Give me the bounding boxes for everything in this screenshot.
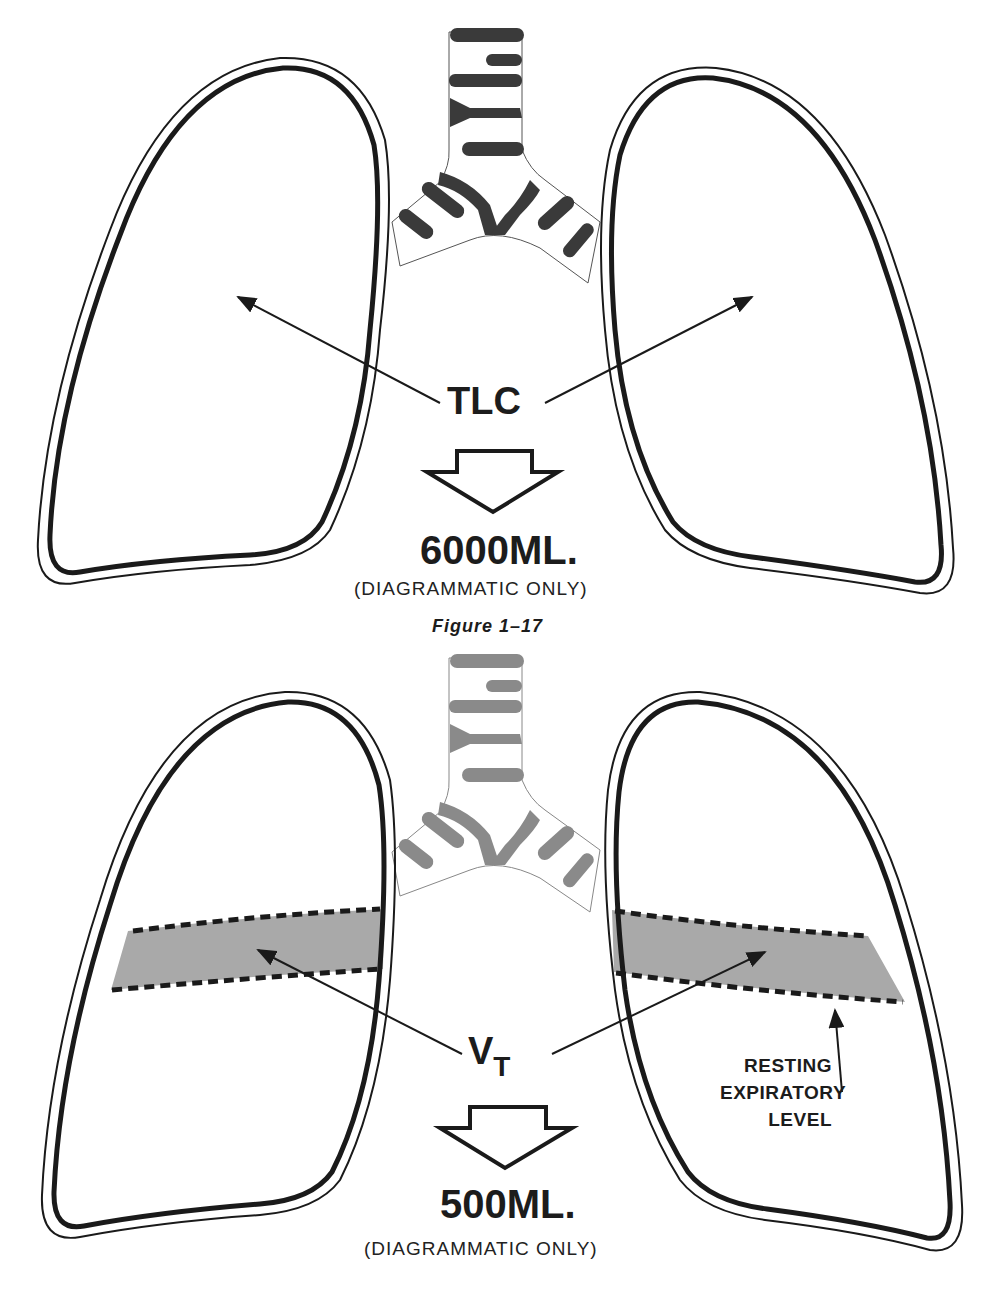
down-arrow-icon-bottom (440, 1107, 572, 1168)
tlc-note: (DIAGRAMMATIC ONLY) (354, 578, 588, 600)
side-label-line-1: RESTING (720, 1052, 832, 1079)
vt-label-sub: T (493, 1051, 510, 1082)
vt-label-main: V (468, 1030, 493, 1072)
vt-label: VT (468, 1030, 510, 1083)
trachea-bottom (392, 654, 600, 912)
vt-note: (DIAGRAMMATIC ONLY) (364, 1238, 598, 1260)
left-lung-top (38, 58, 389, 584)
right-lung-top (601, 68, 954, 594)
trachea-top (392, 28, 600, 283)
figure-caption-top: Figure 1–17 (432, 616, 543, 637)
tlc-volume: 6000ML. (420, 528, 578, 573)
down-arrow-icon-top (427, 451, 558, 512)
resting-expiratory-level-label: RESTING EXPIRATORY LEVEL (720, 1052, 832, 1133)
lung-diagrams-canvas (0, 0, 996, 1295)
tlc-arrow-right (545, 297, 752, 403)
rel-pointer-arrow (835, 1010, 842, 1092)
tlc-arrow-left (238, 297, 440, 403)
tlc-label: TLC (447, 380, 521, 423)
side-label-line-3: LEVEL (720, 1106, 832, 1133)
vt-volume: 500ML. (440, 1182, 576, 1227)
side-label-line-2: EXPIRATORY (720, 1079, 832, 1106)
